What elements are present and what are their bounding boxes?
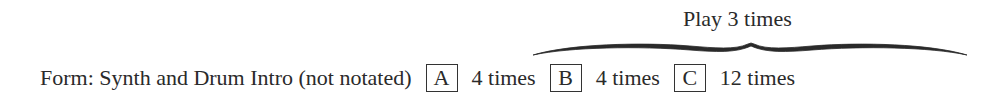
section-repetitions: 4 times — [472, 65, 536, 91]
section-c: C 12 times — [674, 64, 809, 92]
section-repetitions: 12 times — [720, 65, 795, 91]
repeat-annotation-label: Play 3 times — [683, 6, 792, 32]
curly-brace-icon — [530, 38, 970, 60]
form-line: Form: Synth and Drum Intro (not notated)… — [40, 63, 809, 93]
section-letter-box: B — [550, 64, 582, 92]
section-b: B 4 times — [550, 64, 674, 92]
section-letter-box: C — [674, 64, 706, 92]
section-a: A 4 times — [426, 64, 550, 92]
form-label: Form: Synth and Drum Intro (not notated) — [40, 65, 412, 91]
section-letter-box: A — [426, 64, 458, 92]
section-repetitions: 4 times — [596, 65, 660, 91]
